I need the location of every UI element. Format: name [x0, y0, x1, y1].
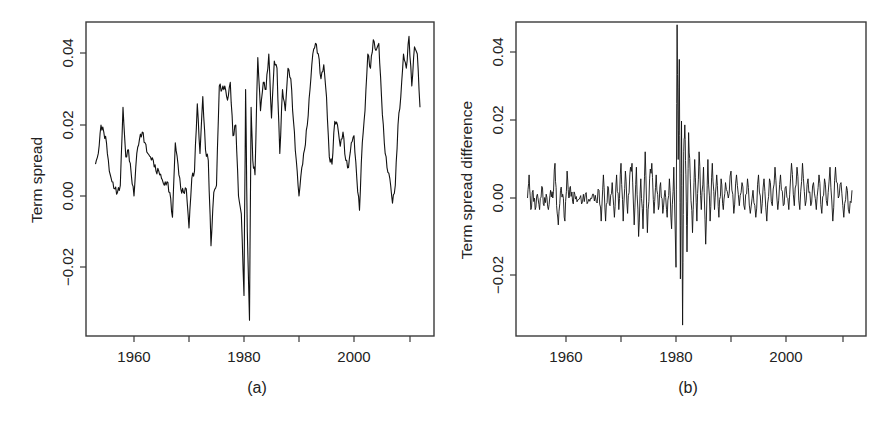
panel-a: 1960 1980 2000 −0.02 0.00 0.02 0.04 Term…	[28, 22, 434, 396]
term-spread-line	[96, 36, 421, 320]
plot-frame-a	[86, 22, 434, 336]
x-tick-label: 1960	[549, 348, 582, 365]
x-tick-label: 1980	[659, 348, 692, 365]
x-tick-label: 2000	[337, 348, 370, 365]
y-tick-label: 0.00	[489, 183, 506, 212]
y-tick-label: 0.00	[59, 181, 76, 210]
x-tick-label: 1980	[227, 348, 260, 365]
y-axis-a: −0.02 0.00 0.02 0.04 Term spread	[28, 38, 86, 286]
figure: 1960 1980 2000 −0.02 0.00 0.02 0.04 Term…	[0, 0, 892, 421]
term-spread-difference-line	[528, 25, 853, 325]
x-tick-label: 1960	[117, 348, 150, 365]
x-axis-a: 1960 1980 2000	[117, 336, 410, 365]
x-tick-label: 2000	[769, 348, 802, 365]
y-tick-label: −0.02	[59, 248, 76, 286]
y-axis-b: −0.02 0.00 0.02 0.04 Term spread differe…	[458, 37, 516, 294]
y-axis-label: Term spread	[28, 137, 45, 223]
y-tick-label: 0.02	[59, 110, 76, 139]
y-tick-label: −0.02	[489, 256, 506, 294]
y-axis-label: Term spread difference	[458, 101, 475, 259]
y-tick-label: 0.04	[489, 37, 506, 66]
panel-caption-b: (b)	[678, 379, 698, 396]
panel-caption-a: (a)	[247, 379, 267, 396]
plot-frame-b	[516, 22, 866, 336]
y-tick-label: 0.02	[489, 105, 506, 134]
panel-b: 1960 1980 2000 −0.02 0.00 0.02 0.04 Term…	[458, 22, 866, 396]
y-tick-label: 0.04	[59, 38, 76, 67]
x-axis-b: 1960 1980 2000	[549, 336, 843, 365]
